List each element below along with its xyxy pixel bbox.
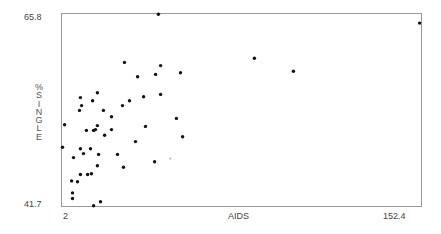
data-point — [103, 134, 106, 137]
data-point — [110, 115, 113, 118]
x-min-label: 2 — [63, 211, 68, 221]
data-point — [80, 104, 83, 107]
data-point — [175, 117, 178, 120]
y-axis-title-letter: E — [34, 133, 44, 141]
data-point — [253, 57, 256, 60]
data-point — [169, 158, 171, 160]
data-point — [157, 13, 160, 16]
data-point — [92, 204, 95, 207]
data-point — [292, 70, 295, 73]
data-points — [61, 13, 422, 208]
data-point — [63, 123, 66, 126]
data-point — [70, 179, 73, 182]
data-point — [90, 172, 93, 175]
y-min-label: 41.7 — [24, 199, 42, 209]
y-axis-title: %SINGLE — [34, 83, 44, 141]
data-point — [418, 21, 421, 24]
data-point — [154, 73, 157, 76]
data-point — [144, 125, 147, 128]
data-point — [153, 160, 156, 163]
data-point — [128, 99, 131, 102]
data-point — [159, 93, 162, 96]
data-point — [71, 197, 74, 200]
data-point — [79, 147, 82, 150]
scatter-chart: 65.8 41.7 %SINGLE 2 AIDS 152.4 — [0, 0, 441, 234]
data-point — [72, 156, 75, 159]
data-point — [134, 140, 137, 143]
data-point — [179, 71, 182, 74]
data-point — [89, 147, 92, 150]
y-max-label: 65.8 — [24, 12, 42, 22]
data-point — [82, 152, 85, 155]
data-point — [96, 91, 99, 94]
data-point — [102, 109, 105, 112]
data-point — [110, 128, 113, 131]
data-point — [85, 129, 88, 132]
data-point — [94, 128, 97, 131]
data-point — [76, 180, 79, 183]
x-axis-title: AIDS — [228, 211, 249, 221]
data-point — [71, 191, 74, 194]
data-point — [96, 124, 99, 127]
data-point — [121, 104, 124, 107]
data-point — [122, 166, 125, 169]
data-point — [123, 61, 126, 64]
data-point — [159, 64, 162, 67]
data-point — [136, 75, 139, 78]
x-max-label: 152.4 — [383, 211, 406, 221]
data-point — [99, 200, 102, 203]
data-point — [96, 164, 99, 167]
data-point — [79, 173, 82, 176]
data-point — [142, 95, 145, 98]
data-point — [78, 109, 81, 112]
plot-frame — [62, 14, 422, 207]
plot-area — [0, 0, 441, 234]
data-point — [181, 135, 184, 138]
data-point — [91, 99, 94, 102]
data-point — [61, 146, 64, 149]
data-point — [97, 153, 100, 156]
data-point — [116, 153, 119, 156]
data-point — [79, 96, 82, 99]
data-point — [86, 173, 89, 176]
